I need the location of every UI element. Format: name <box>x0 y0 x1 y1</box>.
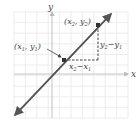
point-2-label: (x2, y2) <box>64 17 91 27</box>
rise-label: y2−y1 <box>99 40 122 50</box>
y-axis-label: y <box>47 2 54 12</box>
point-2 <box>96 23 100 27</box>
point-1-label: (x1, y1) <box>14 42 41 52</box>
run-label: x2−x1 <box>69 62 91 72</box>
slope-diagram: x y (x1, y1) (x2, y2) y2−y1 x2−x1 <box>0 0 140 121</box>
x-axis-label: x <box>131 69 136 79</box>
point-1 <box>62 58 66 62</box>
point-1-pointer <box>47 49 61 57</box>
